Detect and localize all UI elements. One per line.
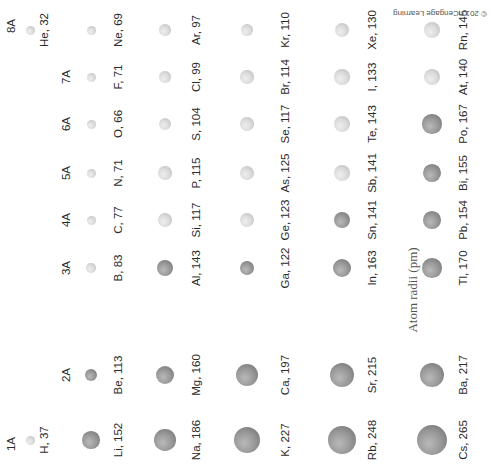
element-label-cs: Cs, 265 bbox=[457, 420, 469, 460]
atom-sphere-o bbox=[87, 120, 96, 129]
atom-sphere-in bbox=[333, 259, 352, 278]
element-label-he: He, 32 bbox=[38, 13, 50, 47]
atom-sphere-kr bbox=[241, 24, 254, 37]
group-label-5a: 5A bbox=[60, 166, 72, 180]
atom-sphere-cl bbox=[159, 71, 170, 82]
atom-sphere-br bbox=[240, 70, 253, 83]
atom-sphere-ba bbox=[420, 363, 445, 388]
atom-sphere-c bbox=[87, 216, 96, 225]
atom-sphere-ar bbox=[159, 24, 170, 35]
atom-sphere-be bbox=[85, 369, 98, 382]
atom-sphere-na bbox=[154, 429, 175, 450]
element-label-h: H, 37 bbox=[38, 426, 50, 454]
element-label-in: In, 163 bbox=[366, 250, 378, 285]
element-label-p: P, 115 bbox=[190, 158, 202, 189]
element-label-s: S, 104 bbox=[190, 107, 202, 140]
element-label-ga: Ga, 122 bbox=[279, 248, 291, 289]
element-label-k: K, 227 bbox=[279, 423, 291, 456]
element-label-n: N, 71 bbox=[112, 159, 124, 187]
atomic-radii-chart: 1A2A3A4A5A6A7A8AH, 37He, 32Li, 152Be, 11… bbox=[0, 0, 494, 473]
group-label-4a: 4A bbox=[60, 213, 72, 227]
copyright-notice: © 2013 Cengage Learning bbox=[393, 9, 487, 18]
element-label-sb: Sb, 141 bbox=[366, 153, 378, 193]
atom-sphere-rn bbox=[424, 22, 441, 39]
element-label-as: As, 125 bbox=[279, 154, 291, 193]
atom-sphere-al bbox=[157, 260, 173, 276]
atom-sphere-p bbox=[158, 166, 171, 179]
element-label-kr: Kr, 110 bbox=[279, 12, 291, 48]
element-label-b: B, 83 bbox=[112, 255, 124, 282]
atom-sphere-h bbox=[26, 436, 35, 445]
atom-sphere-li bbox=[82, 431, 99, 448]
atom-sphere-se bbox=[240, 117, 253, 130]
group-label-3a: 3A bbox=[60, 261, 72, 275]
atom-sphere-te bbox=[334, 116, 350, 132]
group-label-2a: 2A bbox=[60, 368, 72, 382]
element-label-br: Br, 114 bbox=[279, 59, 291, 95]
element-label-ba: Ba, 217 bbox=[457, 355, 469, 395]
element-label-na: Na, 186 bbox=[190, 420, 202, 460]
element-label-ge: Ge, 123 bbox=[279, 200, 291, 241]
element-label-i: I, 133 bbox=[366, 63, 378, 92]
element-label-po: Po, 167 bbox=[457, 104, 469, 144]
atom-sphere-pb bbox=[423, 211, 441, 229]
group-label-1a: 1A bbox=[5, 437, 17, 451]
element-label-f: F, 71 bbox=[112, 65, 124, 90]
atom-sphere-f bbox=[87, 73, 96, 82]
element-label-sn: Sn, 141 bbox=[366, 200, 378, 240]
element-label-ar: Ar, 97 bbox=[190, 15, 202, 45]
atom-sphere-xe bbox=[335, 23, 350, 38]
element-label-xe: Xe, 130 bbox=[366, 10, 378, 50]
element-label-ne: Ne, 69 bbox=[112, 13, 124, 47]
element-label-te: Te, 143 bbox=[366, 105, 378, 143]
atom-sphere-at bbox=[424, 69, 440, 85]
group-label-6a: 6A bbox=[60, 117, 72, 131]
atom-sphere-b bbox=[86, 263, 96, 273]
atom-sphere-po bbox=[422, 114, 441, 133]
element-label-c: C, 77 bbox=[112, 206, 124, 234]
element-label-ca: Ca, 197 bbox=[279, 355, 291, 395]
atom-sphere-bi bbox=[423, 164, 441, 182]
atom-sphere-sb bbox=[334, 165, 350, 181]
atom-sphere-si bbox=[158, 213, 171, 226]
group-label-7a: 7A bbox=[60, 70, 72, 84]
element-label-cl: Cl, 99 bbox=[190, 62, 202, 92]
element-label-al: Al, 143 bbox=[190, 250, 202, 286]
atom-sphere-sn bbox=[334, 212, 350, 228]
atom-sphere-ca bbox=[236, 364, 259, 387]
element-label-bi: Bi, 155 bbox=[457, 155, 469, 191]
atom-sphere-n bbox=[87, 169, 96, 178]
atom-sphere-ga bbox=[240, 261, 254, 275]
element-label-at: At, 140 bbox=[457, 59, 469, 95]
element-label-sr: Sr, 215 bbox=[366, 357, 378, 393]
atom-sphere-mg bbox=[156, 366, 174, 384]
atom-sphere-cs bbox=[417, 425, 447, 455]
axis-title: Atom radii (pm) bbox=[405, 247, 421, 332]
element-label-o: O, 66 bbox=[112, 110, 124, 138]
element-label-rb: Rb, 248 bbox=[366, 420, 378, 460]
element-label-se: Se, 117 bbox=[279, 105, 291, 144]
atom-sphere-k bbox=[234, 427, 260, 453]
element-label-be: Be, 113 bbox=[112, 356, 124, 395]
element-label-si: Si, 117 bbox=[190, 203, 202, 238]
atom-sphere-s bbox=[159, 118, 171, 130]
atom-sphere-ge bbox=[240, 213, 254, 227]
atom-sphere-rb bbox=[328, 426, 357, 455]
element-label-pb: Pb, 154 bbox=[457, 200, 469, 240]
element-label-li: Li, 152 bbox=[112, 423, 124, 458]
element-label-tl: Tl, 170 bbox=[457, 250, 469, 285]
atom-sphere-ne bbox=[87, 26, 96, 35]
atom-sphere-as bbox=[240, 166, 254, 180]
group-label-8a: 8A bbox=[5, 19, 17, 33]
atom-sphere-i bbox=[334, 69, 349, 84]
atom-sphere-sr bbox=[330, 363, 355, 388]
element-label-mg: Mg, 160 bbox=[190, 354, 202, 396]
atom-sphere-tl bbox=[422, 258, 442, 278]
atom-sphere-he bbox=[26, 26, 35, 35]
